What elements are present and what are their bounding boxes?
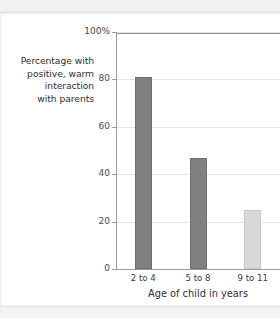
x-axis-title: Age of child in years [116,288,280,299]
y-tick-mark-0 [112,269,116,270]
page-top-band [0,0,280,11]
x-axis-line [116,269,280,270]
y-axis-title-line-1: Percentage with [2,55,94,68]
x-tick-label-0: 2 to 4 [115,273,171,283]
bars-layer [116,32,280,269]
page-top-edge-line [0,11,280,14]
y-tick-label-0: 0 [72,263,110,273]
y-tick-label-80: 80 [72,73,110,83]
bar-2-to-4 [135,77,152,269]
x-tick-label-1: 5 to 8 [170,273,226,283]
bar-9-to-11 [244,210,261,269]
y-tick-label-40: 40 [72,168,110,178]
page-bottom-band [0,308,280,318]
y-tick-label-60: 60 [72,121,110,131]
y-tick-label-20: 20 [72,216,110,226]
y-axis-title-line-4: with parents [2,93,94,106]
y-tick-label-100: 100% [72,26,110,36]
bar-5-to-8 [190,158,207,269]
x-tick-label-2: 9 to 11 [225,273,280,283]
bar-chart-figure: Percentage with positive, warm interacti… [0,0,280,318]
